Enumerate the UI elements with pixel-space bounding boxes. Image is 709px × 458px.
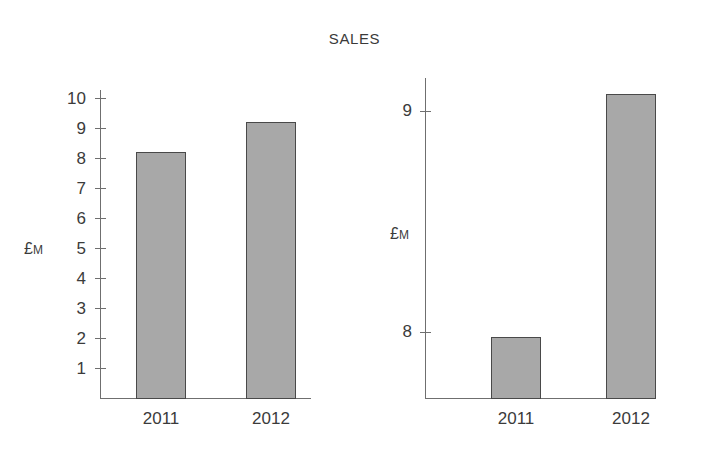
y-tick-label-7: 7 (52, 180, 86, 197)
bar-2011 (491, 337, 541, 399)
bar-2011 (136, 152, 186, 399)
y-axis-unit-currency: £ (390, 225, 399, 242)
y-tick-8 (95, 158, 106, 159)
y-tick-2 (95, 338, 106, 339)
chart-full-scale: 10 9 8 7 6 5 4 3 2 1 £M 2011 2012 (0, 0, 360, 458)
x-label-2012: 2012 (231, 410, 311, 427)
y-tick-label-9: 9 (378, 102, 412, 119)
x-label-2012: 2012 (591, 410, 671, 427)
y-tick-label-8: 8 (378, 323, 412, 340)
y-tick-1 (95, 368, 106, 369)
y-tick-label-4: 4 (52, 270, 86, 287)
y-axis-line (425, 78, 426, 399)
x-label-2011: 2011 (476, 410, 556, 427)
y-axis-unit-magnitude: M (33, 243, 43, 257)
y-axis-line (100, 90, 101, 399)
y-axis-unit-currency: £ (24, 240, 33, 257)
y-tick-9 (420, 111, 431, 112)
bar-2012 (246, 122, 296, 399)
y-tick-8 (420, 332, 431, 333)
chart-truncated-scale: 9 8 £M 2011 2012 (360, 0, 709, 458)
y-tick-7 (95, 188, 106, 189)
y-tick-label-1: 1 (52, 360, 86, 377)
y-tick-label-9: 9 (52, 120, 86, 137)
y-tick-4 (95, 278, 106, 279)
y-tick-label-3: 3 (52, 300, 86, 317)
y-tick-label-5: 5 (52, 240, 86, 257)
y-axis-unit-label: £M (24, 241, 43, 257)
y-tick-label-6: 6 (52, 210, 86, 227)
y-tick-label-2: 2 (52, 330, 86, 347)
bar-2012 (606, 94, 656, 399)
y-tick-9 (95, 128, 106, 129)
y-tick-5 (95, 248, 106, 249)
y-tick-label-10: 10 (52, 90, 86, 107)
y-tick-10 (95, 98, 106, 99)
y-axis-unit-label: £M (390, 226, 409, 242)
x-label-2011: 2011 (121, 410, 201, 427)
y-tick-6 (95, 218, 106, 219)
y-tick-label-8: 8 (52, 150, 86, 167)
y-axis-unit-magnitude: M (399, 228, 409, 242)
y-tick-3 (95, 308, 106, 309)
